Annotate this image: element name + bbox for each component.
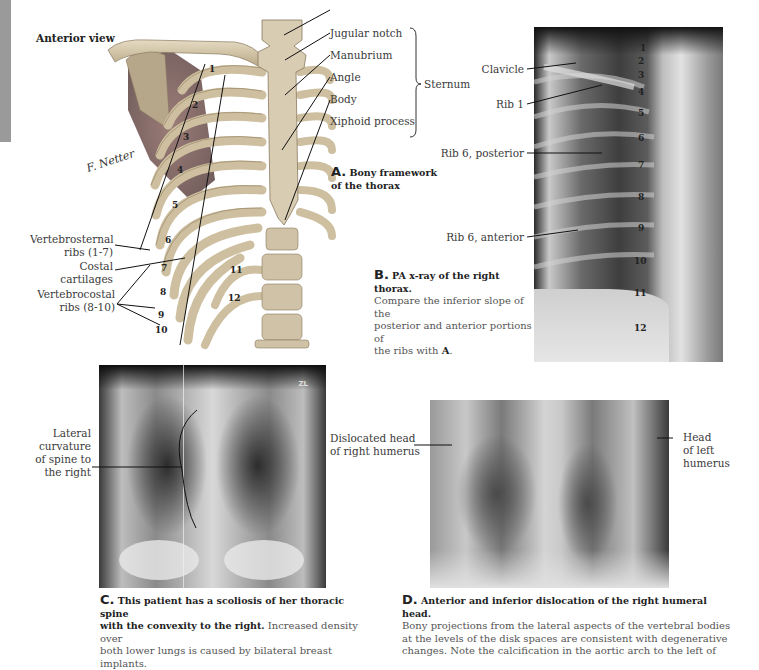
label-dislocated-head-right-humerus: Dislocated head of right humerus — [330, 432, 413, 458]
label-head-left-humerus: Head of left humerus — [683, 431, 730, 470]
figure-d-caption: D. Anterior and inferior dislocation of … — [402, 594, 732, 658]
